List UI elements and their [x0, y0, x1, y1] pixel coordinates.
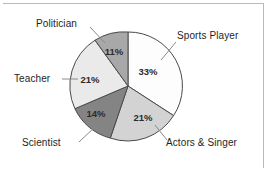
- value-label-scientist: 14%: [86, 108, 106, 119]
- value-label-politician: 11%: [105, 46, 124, 57]
- category-label-politician: Politician: [36, 18, 77, 29]
- pie-chart-figure: 33% 21% 14% 21% 11% Politician Sports Pl…: [0, 0, 267, 171]
- pie-slices: [70, 32, 183, 141]
- category-label-actors-singer: Actors & Singer: [166, 137, 237, 148]
- category-label-sports-player: Sports Player: [177, 30, 238, 41]
- value-label-sports-player: 33%: [138, 66, 158, 77]
- category-label-scientist: Scientist: [22, 137, 61, 148]
- category-label-teacher: Teacher: [14, 73, 50, 84]
- leader-line-scientist: [79, 126, 96, 142]
- value-label-actors-singer: 21%: [133, 112, 153, 123]
- value-label-teacher: 21%: [80, 74, 100, 85]
